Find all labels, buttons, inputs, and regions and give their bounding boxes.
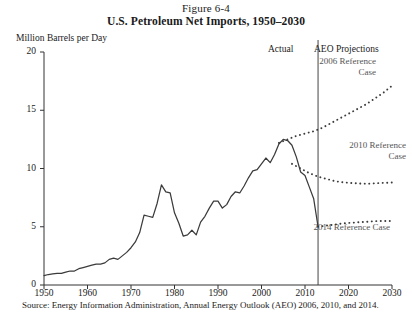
series-line — [44, 139, 318, 275]
x-tick-label: 1990 — [198, 288, 238, 298]
figure-container: Figure 6-4 U.S. Petroleum Net Imports, 1… — [0, 0, 412, 322]
y-tick-label: 5 — [16, 221, 36, 231]
x-tick-label: 2010 — [285, 288, 325, 298]
x-tick-label: 1950 — [24, 288, 64, 298]
series-line — [279, 86, 392, 143]
x-tick-label: 2000 — [242, 288, 282, 298]
x-tick-label: 1960 — [68, 288, 108, 298]
plot-area — [44, 52, 392, 285]
y-tick-label: 10 — [16, 163, 36, 173]
figure-label: Figure 6-4 — [0, 2, 412, 14]
source-note: Source: Energy Information Administratio… — [22, 300, 379, 310]
x-tick-label: 1980 — [155, 288, 195, 298]
x-tick-label: 2030 — [372, 288, 412, 298]
chart-svg — [44, 52, 392, 285]
series-line — [318, 221, 392, 227]
x-tick-label: 1970 — [111, 288, 151, 298]
y-tick-label: 15 — [16, 104, 36, 114]
y-tick-label: 20 — [16, 46, 36, 56]
y-axis-title: Million Barrels per Day — [16, 33, 107, 43]
x-tick-label: 2020 — [329, 288, 369, 298]
figure-title: U.S. Petroleum Net Imports, 1950–2030 — [0, 15, 412, 27]
